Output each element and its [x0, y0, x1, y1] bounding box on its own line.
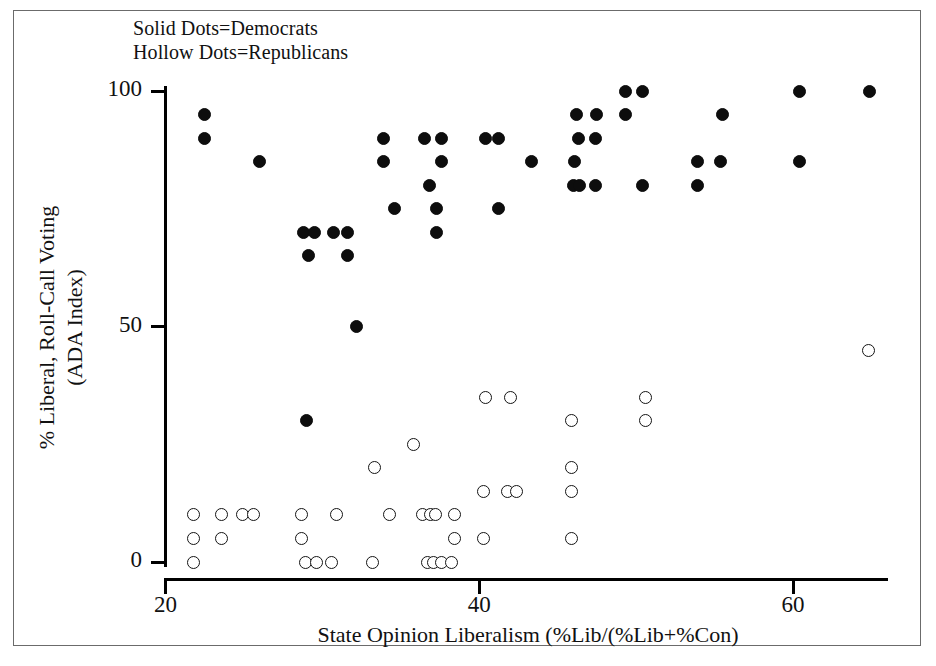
data-point-republican [504, 391, 517, 404]
data-point-democrat [198, 132, 211, 145]
data-point-democrat [327, 226, 340, 239]
data-point-republican [477, 485, 490, 498]
data-point-republican [247, 508, 260, 521]
data-point-democrat [716, 108, 729, 121]
data-point-republican [366, 556, 379, 569]
data-point-republican [187, 532, 200, 545]
x-axis-line [164, 578, 888, 581]
data-point-republican [639, 391, 652, 404]
data-point-democrat [568, 155, 581, 168]
data-point-democrat [341, 249, 354, 262]
data-point-republican [448, 532, 461, 545]
data-point-republican [187, 508, 200, 521]
data-point-republican [565, 461, 578, 474]
data-point-democrat [253, 155, 266, 168]
data-point-democrat [430, 226, 443, 239]
data-point-democrat [302, 249, 315, 262]
data-point-republican [448, 508, 461, 521]
data-point-democrat [308, 226, 321, 239]
data-point-democrat [479, 132, 492, 145]
y-axis-label: % Liberal, Roll-Call Voting (ADA Index) [33, 118, 88, 538]
data-point-republican [565, 414, 578, 427]
data-point-republican [215, 532, 228, 545]
y-axis-label-line1: % Liberal, Roll-Call Voting [34, 206, 59, 450]
data-point-democrat [423, 179, 436, 192]
data-point-republican [565, 532, 578, 545]
data-point-republican [510, 485, 523, 498]
data-point-democrat [589, 179, 602, 192]
data-point-democrat [619, 108, 632, 121]
data-point-democrat [619, 85, 632, 98]
data-point-democrat [525, 155, 538, 168]
data-point-republican [565, 485, 578, 498]
y-tick-label: 100 [72, 76, 142, 102]
data-point-democrat [793, 85, 806, 98]
data-point-democrat [570, 108, 583, 121]
data-point-democrat [590, 108, 603, 121]
data-point-democrat [377, 155, 390, 168]
data-point-republican [429, 508, 442, 521]
y-axis-label-line2: (ADA Index) [61, 269, 86, 386]
x-tick-label: 20 [131, 592, 201, 618]
data-point-republican [310, 556, 323, 569]
data-point-democrat [636, 85, 649, 98]
data-point-democrat [573, 179, 586, 192]
y-tick-mark [151, 561, 165, 564]
data-point-republican [187, 556, 200, 569]
data-point-republican [368, 461, 381, 474]
data-point-democrat [341, 226, 354, 239]
x-axis-label: State Opinion Liberalism (%Lib/(%Lib+%Co… [168, 622, 888, 648]
data-point-democrat [691, 155, 704, 168]
y-tick-mark [151, 325, 165, 328]
data-point-republican [445, 556, 458, 569]
data-point-republican [862, 344, 875, 357]
data-point-republican [325, 556, 338, 569]
data-point-republican [407, 438, 420, 451]
data-point-democrat [198, 108, 211, 121]
data-point-republican [639, 414, 652, 427]
data-point-republican [479, 391, 492, 404]
data-point-democrat [636, 179, 649, 192]
data-point-democrat [691, 179, 704, 192]
data-point-democrat [418, 132, 431, 145]
data-point-democrat [350, 320, 363, 333]
data-point-democrat [492, 132, 505, 145]
data-point-republican [215, 508, 228, 521]
data-point-democrat [492, 202, 505, 215]
y-tick-mark [151, 90, 165, 93]
data-point-democrat [863, 85, 876, 98]
plot-area: 204060050100 [0, 0, 936, 666]
data-point-republican [295, 508, 308, 521]
data-point-democrat [435, 155, 448, 168]
data-point-democrat [435, 132, 448, 145]
data-point-democrat [589, 132, 602, 145]
data-point-democrat [388, 202, 401, 215]
data-point-democrat [714, 155, 727, 168]
data-point-democrat [377, 132, 390, 145]
y-tick-label: 0 [72, 547, 142, 573]
data-point-democrat [300, 414, 313, 427]
x-tick-label: 40 [444, 592, 514, 618]
figure-root: Solid Dots=Democrats Hollow Dots=Republi… [0, 0, 936, 666]
data-point-republican [295, 532, 308, 545]
data-point-republican [383, 508, 396, 521]
data-point-republican [477, 532, 490, 545]
data-point-democrat [430, 202, 443, 215]
data-point-democrat [572, 132, 585, 145]
data-point-democrat [793, 155, 806, 168]
x-tick-label: 60 [758, 592, 828, 618]
data-point-republican [330, 508, 343, 521]
